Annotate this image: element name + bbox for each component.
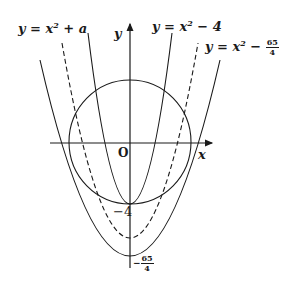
- tick-label-minus-65-4: −654: [133, 254, 154, 273]
- y-axis-label: y: [114, 26, 122, 41]
- tick-label-minus-4: −4: [113, 204, 132, 219]
- x-axis-label: x: [198, 147, 206, 162]
- label-curve-x2-minus-4: y = x2 − 4: [152, 18, 222, 34]
- label-curve-x2-minus-65-4: y = x2 − 654: [205, 38, 279, 57]
- origin-label: O: [118, 146, 128, 160]
- diagram-canvas: y = x2 + a y = x2 − 4 y = x2 − 654 y x O…: [0, 0, 284, 288]
- label-curve-x2-plus-a: y = x2 + a: [18, 20, 87, 36]
